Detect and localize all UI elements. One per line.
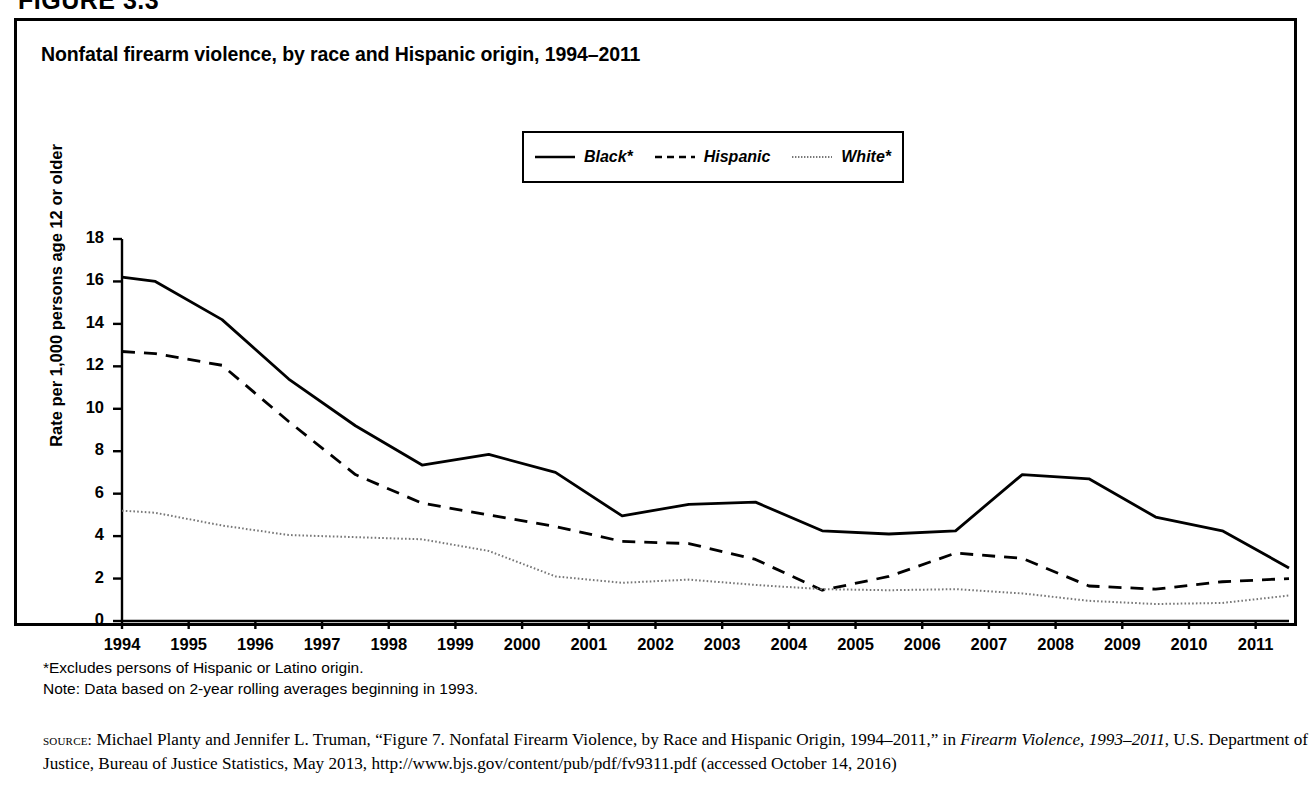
series-line-black: [122, 277, 1289, 568]
y-tick-label: 0: [70, 610, 104, 629]
x-tick-label: 1998: [354, 635, 424, 654]
source-text-before: Michael Planty and Jennifer L. Truman, “…: [92, 730, 960, 749]
x-tick-label: 2007: [954, 635, 1024, 654]
x-tick-label: 2011: [1221, 635, 1291, 654]
y-tick-label: 4: [70, 525, 104, 544]
figure-number: FIGURE 3.3: [18, 0, 159, 15]
y-tick-label: 10: [70, 398, 104, 417]
line-chart: [17, 21, 1300, 629]
chart-plot-area: Rate per 1,000 persons age 12 or older 0…: [17, 21, 1300, 629]
y-tick-label: 6: [70, 483, 104, 502]
note-line-1: *Excludes persons of Hispanic or Latino …: [43, 657, 478, 678]
y-tick-label: 14: [70, 313, 104, 332]
series-line-white: [122, 511, 1289, 604]
x-tick-label: 1995: [154, 635, 224, 654]
x-tick-label: 2008: [1021, 635, 1091, 654]
source-kicker: source:: [43, 731, 92, 748]
figure-panel: Nonfatal firearm violence, by race and H…: [14, 18, 1297, 626]
x-tick-label: 2002: [620, 635, 690, 654]
y-tick-label: 2: [70, 568, 104, 587]
x-tick-label: 2004: [754, 635, 824, 654]
source-citation: source: Michael Planty and Jennifer L. T…: [43, 728, 1315, 775]
x-tick-label: 2009: [1087, 635, 1157, 654]
x-tick-label: 2010: [1154, 635, 1224, 654]
x-tick-label: 1999: [420, 635, 490, 654]
y-tick-label: 12: [70, 355, 104, 374]
x-tick-label: 2003: [687, 635, 757, 654]
x-tick-label: 2005: [821, 635, 891, 654]
x-tick-label: 1997: [287, 635, 357, 654]
x-tick-label: 2000: [487, 635, 557, 654]
y-tick-label: 8: [70, 440, 104, 459]
note-line-2: Note: Data based on 2-year rolling avera…: [43, 678, 478, 699]
x-tick-label: 2006: [887, 635, 957, 654]
source-italic-title: Firearm Violence, 1993–2011: [960, 730, 1164, 749]
x-tick-label: 1996: [220, 635, 290, 654]
x-tick-label: 2001: [554, 635, 624, 654]
chart-notes: *Excludes persons of Hispanic or Latino …: [43, 657, 478, 699]
series-line-hispanic: [122, 351, 1289, 590]
y-tick-label: 18: [70, 228, 104, 247]
y-tick-label: 16: [70, 270, 104, 289]
x-tick-label: 1994: [87, 635, 157, 654]
